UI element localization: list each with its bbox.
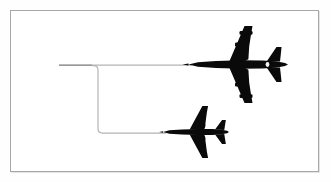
large-aircraft-pylon-lower-outboard: [244, 92, 247, 98]
large-aircraft-fuselage: [189, 60, 289, 69]
branch-trail-path: [92, 66, 166, 134]
small-aircraft-stabilizer-lower: [215, 134, 226, 144]
large-aircraft-vertical-fin: [266, 62, 270, 67]
large-aircraft-pylon-upper-outboard: [244, 31, 247, 37]
small-aircraft-silhouette: [159, 106, 229, 158]
large-aircraft-stabilizer-lower: [267, 68, 282, 83]
large-aircraft-pylon-upper-inboard: [240, 43, 243, 50]
large-aircraft-silhouette: [183, 26, 289, 103]
aircraft-diagram-canvas: [0, 0, 331, 182]
figure-root: Black silhouettes of two jet aircraft fl…: [0, 0, 331, 182]
large-aircraft-stabilizer-upper: [267, 47, 282, 62]
flight-path-group: [59, 65, 192, 133]
small-aircraft-stabilizer-upper: [215, 120, 226, 130]
small-aircraft-nose-probe: [159, 131, 163, 132]
large-aircraft-pylon-lower-inboard: [240, 80, 243, 87]
small-aircraft-fuselage: [163, 129, 229, 135]
